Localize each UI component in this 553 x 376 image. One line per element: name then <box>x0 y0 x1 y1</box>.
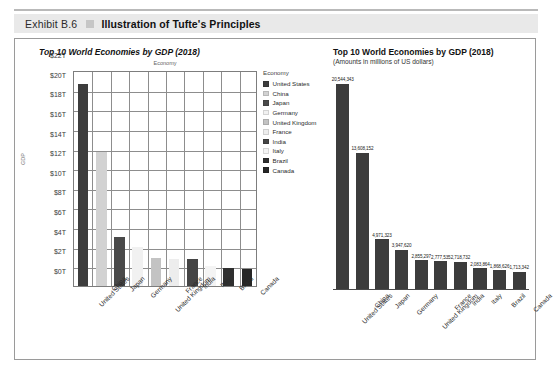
x-axis-tick-label: Brazil <box>238 275 255 292</box>
bar-slot <box>238 72 256 286</box>
y-axis-tick-label: $10T <box>50 169 66 176</box>
bar[interactable] <box>513 272 526 289</box>
bar-value-label: 3,947,620 <box>392 243 412 248</box>
right-chart-baseline <box>333 289 529 290</box>
legend-swatch-icon <box>263 100 269 106</box>
bar[interactable] <box>473 268 486 289</box>
bar-slot <box>220 72 238 286</box>
bar-value-label: 13,608,152 <box>351 146 373 151</box>
bar[interactable] <box>336 84 349 289</box>
bar-slot: 20,544,343 <box>336 69 349 289</box>
legend-swatch-icon <box>263 119 269 125</box>
bar[interactable] <box>375 239 388 289</box>
bar-slot <box>129 72 147 286</box>
right-chart-plot-area: 20,544,34313,608,1524,971,3233,947,6202,… <box>333 69 529 289</box>
legend-item-label: China <box>273 90 289 97</box>
legend-item-label: Brazil <box>273 157 288 164</box>
exhibit-number: Exhibit B.6 <box>25 18 77 30</box>
legend-item-label: Italy <box>273 147 284 154</box>
bar-value-label: 2,855,297 <box>411 254 431 259</box>
bar[interactable] <box>356 153 369 289</box>
left-chart-bars <box>74 72 256 286</box>
bar-slot: 2,083,864 <box>473 69 486 289</box>
legend-swatch-icon <box>263 148 269 154</box>
legend-swatch-icon <box>263 91 269 97</box>
legend-item[interactable]: Germany <box>263 108 333 118</box>
right-chart-title: Top 10 World Economies by GDP (2018) <box>333 47 494 57</box>
bar-slot: 4,971,323 <box>375 69 388 289</box>
legend-item-label: United Kingdom <box>273 119 317 126</box>
bar[interactable] <box>493 270 506 289</box>
bar-slot <box>165 72 183 286</box>
legend-item-label: Canada <box>273 167 295 174</box>
legend-swatch-icon <box>263 158 269 164</box>
legend-swatch-icon <box>263 129 269 135</box>
legend-swatch-icon <box>263 110 269 116</box>
bar[interactable] <box>454 262 467 289</box>
legend-item-label: Japan <box>273 99 290 106</box>
y-axis-tick-label: $6T <box>54 209 66 216</box>
bar-value-label: 2,777,535 <box>431 255 451 260</box>
bar-slot: 13,608,152 <box>356 69 369 289</box>
legend-item[interactable]: China <box>263 89 333 99</box>
legend-item-label: United States <box>273 80 310 87</box>
x-axis-tick-label: Japan <box>128 275 146 293</box>
y-axis-tick-label: $18T <box>50 91 66 98</box>
legend-item[interactable]: Canada <box>263 165 333 175</box>
y-axis-tick-label: $0T <box>54 268 66 275</box>
bar-value-label: 2,718,732 <box>451 255 471 260</box>
x-axis-tick-label: Italy <box>219 275 233 289</box>
bar-value-label: 1,713,342 <box>509 265 529 270</box>
bar-slot: 2,855,297 <box>415 69 428 289</box>
left-chart-x-axis-labels: United StatesChinaJapanGermanyUnited Kin… <box>73 275 257 337</box>
y-axis-tick-label: $4T <box>54 228 66 235</box>
x-axis-tick-label: Italy <box>489 292 503 306</box>
legend-item-label: France <box>273 128 292 135</box>
x-axis-tick-label: Japan <box>393 292 411 310</box>
bar-slot <box>201 72 219 286</box>
legend-title: Economy <box>263 69 333 76</box>
legend-swatch-icon <box>263 167 269 173</box>
bar[interactable] <box>434 261 447 289</box>
bar[interactable] <box>395 250 408 289</box>
y-axis-tick-label: $20T <box>50 71 66 78</box>
left-chart-plot-area <box>73 71 257 287</box>
legend-swatch-icon <box>263 81 269 87</box>
bar-slot: 1,868,626 <box>493 69 506 289</box>
bar[interactable] <box>96 152 107 286</box>
figure-frame: Top 10 World Economies by GDP (2018) Eco… <box>14 38 536 360</box>
bar-slot <box>183 72 201 286</box>
bar-slot <box>147 72 165 286</box>
bar-value-label: 4,971,323 <box>372 233 392 238</box>
legend-item[interactable]: Japan <box>263 98 333 108</box>
legend-item-label: Germany <box>273 109 298 116</box>
bar-slot: 3,947,620 <box>395 69 408 289</box>
legend-item[interactable]: India <box>263 137 333 147</box>
legend-item[interactable]: France <box>263 127 333 137</box>
legend-item[interactable]: United States <box>263 79 333 89</box>
left-chart-y-axis-title: GDP <box>20 153 26 165</box>
legend-item[interactable]: United Kingdom <box>263 117 333 127</box>
bar[interactable] <box>415 260 428 289</box>
header-top-rule <box>14 9 538 11</box>
left-chart-plot-wrap <box>73 67 257 289</box>
left-chart-plot-caption: Economy <box>73 60 257 66</box>
y-axis-tick-label: $8T <box>54 189 66 196</box>
legend-item[interactable]: Italy <box>263 146 333 156</box>
bar-slot <box>110 72 128 286</box>
y-axis-tick-label: $12T <box>50 150 66 157</box>
legend-item[interactable]: Brazil <box>263 156 333 166</box>
bar-slot <box>92 72 110 286</box>
bar-slot <box>74 72 92 286</box>
right-chart-subtitle: (Amounts in millions of US dollars) <box>333 58 434 65</box>
bar-slot: 2,718,732 <box>454 69 467 289</box>
left-chart-legend: Economy United StatesChinaJapanGermanyUn… <box>263 69 333 175</box>
legend-item-label: India <box>273 138 286 145</box>
exhibit-title: Illustration of Tufte's Principles <box>101 18 260 30</box>
legend-swatch-icon <box>263 139 269 145</box>
y-axis-tick-label: $16T <box>50 110 66 117</box>
right-chart: Top 10 World Economies by GDP (2018) (Am… <box>333 47 533 347</box>
bar[interactable] <box>78 84 89 286</box>
left-chart-y-axis: GDP $22T$20T$18T$16T$14T$12T$10T$8T$6T$4… <box>25 51 69 267</box>
